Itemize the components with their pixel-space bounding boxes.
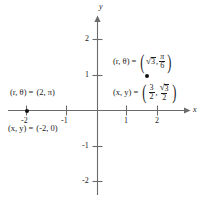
fraction-x-numerator: 3: [149, 84, 155, 92]
x-tick-label--1: -1: [61, 117, 68, 125]
paren-close-icon: ): [172, 84, 176, 100]
sqrt-radicand-y: 3: [164, 84, 169, 93]
annotation-left-cartesian-value: (-2, 0): [36, 124, 57, 133]
y-tick-label--1: -1: [82, 142, 89, 150]
data-point-right: [145, 74, 149, 78]
fraction-x: 3 2: [148, 84, 155, 101]
annotation-left-cartesian-prefix: (x, y) =: [8, 124, 33, 133]
annotation-left-polar-value: (2, π): [36, 88, 54, 97]
fraction-y: √ 3 2: [158, 83, 170, 102]
data-point-left: [25, 109, 29, 113]
paren-open-icon: (: [143, 84, 147, 100]
annotation-right-polar-prefix: (r, θ) =: [113, 57, 136, 66]
y-tick-label-1: 1: [85, 71, 89, 79]
y-tick-label-2: 2: [85, 35, 89, 43]
y-axis-arrowhead: [94, 16, 100, 23]
x-axis-label: x: [193, 106, 197, 114]
x-axis-arrowhead: [184, 107, 191, 113]
fraction-angle: π 6: [159, 53, 166, 70]
fraction-angle-denominator: 6: [159, 61, 165, 70]
x-tick-label-2: 2: [155, 117, 159, 125]
polar-coordinate-figure: y x -2 -1 1 2 2 1 -1 -2 (r, θ) = (2, π) …: [0, 0, 203, 205]
fraction-y-numerator: √ 3: [159, 83, 170, 93]
annotation-right-cartesian: (x, y) = ( 3 2 , √ 3 2 ): [113, 83, 177, 102]
annotation-left-cartesian: (x, y) = (-2, 0): [8, 124, 58, 133]
annotation-left-polar: (r, θ) = (2, π): [10, 88, 55, 97]
annotation-right-cartesian-prefix: (x, y) =: [113, 88, 138, 97]
y-tick-label--2: -2: [82, 177, 89, 185]
sqrt-group-y: √ 3: [160, 83, 169, 93]
paren-open-icon: (: [141, 54, 145, 70]
sqrt-group-radius: √ 3: [146, 57, 155, 67]
annotation-right-polar: (r, θ) = ( √ 3 , π 6 ): [113, 53, 172, 70]
y-axis-label: y: [99, 3, 103, 11]
fraction-x-denominator: 2: [149, 92, 155, 101]
fraction-angle-numerator: π: [159, 53, 165, 61]
paren-close-icon: ): [167, 54, 171, 70]
x-tick-label-1: 1: [124, 117, 128, 125]
fraction-y-denominator: 2: [161, 93, 167, 102]
annotation-left-polar-prefix: (r, θ) =: [10, 88, 33, 97]
